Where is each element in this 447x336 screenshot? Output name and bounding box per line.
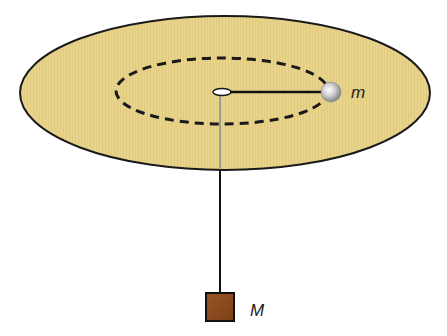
orbiting-ball [321, 82, 341, 102]
hole [213, 89, 231, 96]
diagram-canvas: m M [0, 0, 447, 336]
hanging-block [206, 293, 234, 321]
label-m: m [351, 83, 365, 102]
label-M: M [250, 301, 265, 320]
